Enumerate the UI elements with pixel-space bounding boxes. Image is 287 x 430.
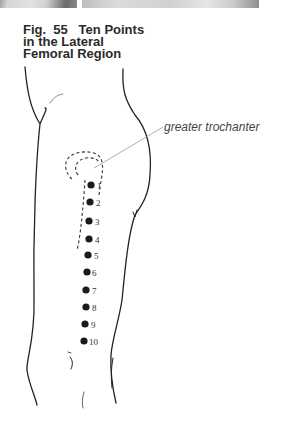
point-3 (85, 217, 92, 224)
femur-dashed-line (77, 180, 85, 250)
point-1 (87, 181, 94, 188)
knee-crease-tick (68, 352, 71, 353)
point-label-2: 2 (96, 198, 101, 208)
body-outline-left (25, 67, 46, 405)
point-label-8: 8 (92, 303, 97, 313)
point-9 (81, 320, 88, 327)
knee-lower-line (82, 392, 84, 408)
annotation-leader (94, 127, 163, 168)
leg-diagram: 1 2 3 4 5 6 7 8 9 10 (0, 0, 287, 430)
point-label-10: 10 (89, 337, 99, 347)
point-10 (80, 337, 87, 344)
trochanter-outline-inner (76, 158, 99, 175)
inguinal-crease (50, 94, 63, 103)
contour-tick (133, 210, 137, 217)
point-2 (86, 198, 93, 205)
point-label-9: 9 (91, 320, 96, 330)
point-7 (82, 286, 89, 293)
point-label-1: 1 (97, 181, 102, 191)
point-label-7: 7 (92, 286, 97, 296)
point-label-3: 3 (95, 217, 100, 227)
point-6 (83, 268, 90, 275)
point-label-6: 6 (92, 268, 97, 278)
knee-crease (70, 357, 72, 369)
point-4 (85, 235, 92, 242)
point-label-4: 4 (95, 235, 100, 245)
point-label-5: 5 (94, 251, 99, 261)
body-outline-right (111, 69, 151, 403)
point-5 (84, 251, 91, 258)
greater-trochanter-label: greater trochanter (164, 120, 259, 134)
point-8 (82, 303, 89, 310)
